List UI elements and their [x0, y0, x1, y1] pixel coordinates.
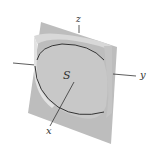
y-axis-negative	[13, 63, 35, 65]
y-axis	[113, 74, 136, 76]
z-axis-label: z	[75, 14, 81, 24]
surface-label: S	[63, 69, 71, 82]
y-axis-label: y	[139, 69, 146, 80]
surface-diagram: z y x S	[0, 0, 155, 149]
x-axis-label: x	[46, 125, 52, 136]
